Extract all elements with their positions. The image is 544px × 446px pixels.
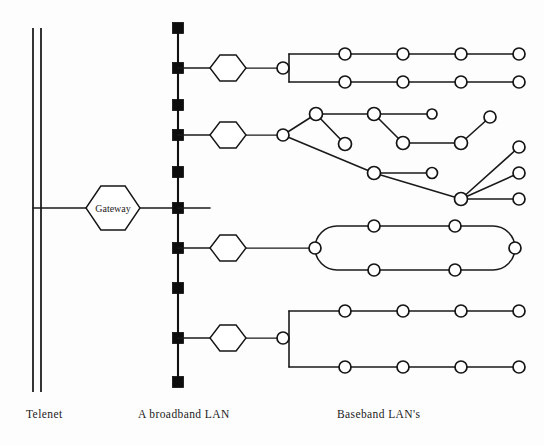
baseband-lan-ring bbox=[246, 220, 521, 276]
caption-collection: TelenetA broadband LANBaseband LAN's bbox=[26, 408, 420, 420]
lan-station-node[interactable] bbox=[513, 193, 525, 205]
broadband-tap[interactable] bbox=[173, 377, 184, 388]
baseband-lan-dual-bus bbox=[246, 48, 525, 88]
lan-station-node[interactable] bbox=[449, 220, 461, 232]
lan-station-node[interactable] bbox=[310, 108, 323, 121]
lan-hub-node[interactable] bbox=[277, 62, 289, 74]
broadband-tap[interactable] bbox=[173, 100, 184, 111]
lan-station-node[interactable] bbox=[455, 361, 467, 373]
caption-broadband: A broadband LAN bbox=[138, 408, 230, 420]
lan-station-node[interactable] bbox=[397, 137, 410, 150]
baseband-lan-collection bbox=[246, 48, 525, 373]
broadband-tap[interactable] bbox=[173, 283, 184, 294]
broadband-bus-group bbox=[173, 23, 211, 388]
lan-station-node[interactable] bbox=[397, 361, 409, 373]
lan-station-node[interactable] bbox=[455, 76, 467, 88]
lan-station-node[interactable] bbox=[339, 138, 352, 151]
lan-link bbox=[461, 147, 519, 199]
lan-hub-node[interactable] bbox=[277, 332, 289, 344]
lan-station-node[interactable] bbox=[449, 264, 461, 276]
caption-baseband: Baseband LAN's bbox=[337, 408, 420, 420]
caption-telenet: Telenet bbox=[26, 408, 63, 420]
lan-station-node[interactable] bbox=[484, 111, 496, 123]
baseband-lan-dual-bus bbox=[246, 305, 525, 373]
lan-hub-node[interactable] bbox=[309, 242, 321, 254]
lan-station-node[interactable] bbox=[339, 48, 351, 60]
lan-station-node[interactable] bbox=[455, 48, 467, 60]
lan-station-node[interactable] bbox=[368, 167, 381, 180]
lan-station-node[interactable] bbox=[339, 76, 351, 88]
bridge-hexagon[interactable] bbox=[210, 55, 246, 81]
broadband-tap[interactable] bbox=[173, 167, 184, 178]
lan-station-node[interactable] bbox=[509, 242, 521, 254]
lan-station-node[interactable] bbox=[339, 361, 351, 373]
lan-link bbox=[461, 173, 519, 199]
lan-station-node[interactable] bbox=[339, 305, 351, 317]
lan-station-node[interactable] bbox=[368, 264, 380, 276]
gateway-group[interactable]: Gateway bbox=[86, 186, 178, 230]
diagram-canvas: Gateway TelenetA broadband LANBaseband L… bbox=[0, 0, 544, 446]
lan-station-node[interactable] bbox=[397, 305, 409, 317]
lan-station-node[interactable] bbox=[455, 193, 468, 206]
lan-ring-loop bbox=[315, 226, 515, 270]
lan-station-node[interactable] bbox=[368, 220, 380, 232]
bridge-hexagon[interactable] bbox=[210, 235, 246, 261]
baseband-lan-tree bbox=[246, 108, 525, 206]
lan-station-node[interactable] bbox=[427, 168, 438, 179]
lan-station-node[interactable] bbox=[397, 76, 409, 88]
lan-station-node[interactable] bbox=[427, 109, 437, 119]
lan-hub-node[interactable] bbox=[277, 129, 289, 141]
bridge-hexagon[interactable] bbox=[210, 325, 246, 351]
lan-station-node[interactable] bbox=[397, 48, 409, 60]
bridge-hexagon-collection bbox=[210, 55, 246, 351]
lan-station-node[interactable] bbox=[455, 305, 467, 317]
bridge-hexagon[interactable] bbox=[210, 122, 246, 148]
lan-link bbox=[283, 135, 374, 173]
lan-station-node[interactable] bbox=[513, 48, 525, 60]
network-diagram-figure: Gateway TelenetA broadband LANBaseband L… bbox=[0, 0, 544, 446]
lan-station-node[interactable] bbox=[368, 108, 381, 121]
lan-station-node[interactable] bbox=[513, 167, 525, 179]
lan-station-node[interactable] bbox=[513, 76, 525, 88]
broadband-tap[interactable] bbox=[173, 23, 184, 34]
lan-station-node[interactable] bbox=[513, 361, 525, 373]
lan-station-node[interactable] bbox=[455, 137, 468, 150]
gateway-label: Gateway bbox=[95, 203, 131, 214]
lan-station-node[interactable] bbox=[513, 305, 525, 317]
lan-link bbox=[374, 173, 461, 199]
telenet-group bbox=[33, 28, 88, 392]
lan-station-node[interactable] bbox=[513, 141, 525, 153]
